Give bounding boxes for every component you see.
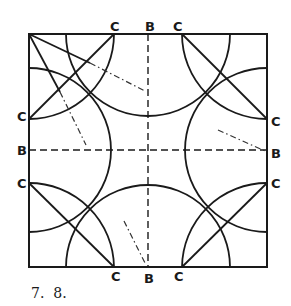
chord-bottom-right [182, 183, 267, 267]
label-top-b: B [145, 19, 155, 34]
label-left-c-bottom: C [17, 176, 27, 191]
figure-caption: 7. 8. [31, 285, 67, 301]
label-bottom-b: B [144, 271, 154, 286]
ray-top-left-shallow-ext [90, 63, 145, 91]
label-left-b: B [17, 143, 27, 158]
label-top-c-right: C [173, 19, 183, 34]
label-right-b: B [271, 146, 281, 161]
chord-top-left [29, 34, 114, 119]
label-top-c-left: C [110, 19, 120, 34]
ray-top-left-steep [29, 34, 60, 92]
dashdot-bottom [124, 221, 146, 265]
ray-top-left-shallow [29, 34, 90, 63]
label-right-c-bottom: C [271, 176, 281, 191]
label-left-c-top: C [17, 109, 27, 124]
label-bottom-c-right: C [174, 269, 184, 284]
label-bottom-c-left: C [111, 269, 121, 284]
dashdot-right [218, 130, 265, 151]
chord-bottom-left [29, 183, 114, 267]
geometric-construction-diagram: C B C C B C C B C C B C 7. 8. [0, 0, 291, 306]
chord-top-right [182, 34, 267, 119]
label-right-c-top: C [271, 114, 281, 129]
